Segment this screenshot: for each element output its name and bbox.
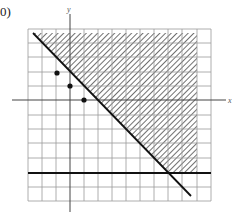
point-1-0 [81,97,86,102]
point-0-1 [67,83,72,88]
y-axis-label: y [66,5,71,14]
x-axis-label: x [227,96,232,105]
shaded-region [33,33,197,173]
point-neg1-2 [54,70,59,75]
inequality-graph: y x [0,0,240,223]
